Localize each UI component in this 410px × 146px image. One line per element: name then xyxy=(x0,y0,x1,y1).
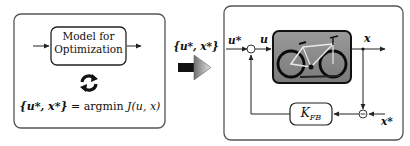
model-box-line2: Optimization xyxy=(51,43,126,56)
diagram-canvas xyxy=(0,0,410,146)
equation-cost: J(u, x) xyxy=(127,100,160,113)
transfer-arrow xyxy=(178,55,211,80)
gain-symbol: K xyxy=(301,106,310,120)
equation-equals: = xyxy=(71,100,80,113)
model-box-label: Model for Optimization xyxy=(51,30,126,56)
output-label-x: x xyxy=(364,32,371,45)
reference-label-x-star: x* xyxy=(381,115,393,127)
model-box-line1: Model for xyxy=(51,30,126,43)
bicycle-plant-image xyxy=(273,31,351,83)
equation-argmin: argmin xyxy=(84,100,124,113)
input-label-u-star: u* xyxy=(228,34,241,46)
summing-junction-top xyxy=(247,45,255,53)
gain-subscript: FB xyxy=(310,113,321,122)
feedback-gain-label: KFB xyxy=(290,106,332,122)
equation-lhs: {u*, x*} xyxy=(20,100,68,113)
transfer-label: {u*, x*} xyxy=(170,40,222,52)
control-label-u: u xyxy=(260,33,268,46)
argmin-equation: {u*, x*} = argmin J(u, x) xyxy=(18,100,162,113)
